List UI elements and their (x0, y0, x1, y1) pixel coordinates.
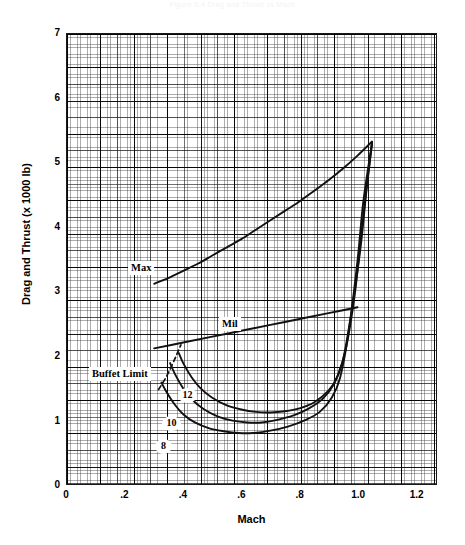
x-tick-1-2: 1.2 (410, 489, 424, 500)
chart-figure: Figure 5.4 Drag and Thrust vs Mach 7 6 5… (0, 0, 465, 545)
y-tick-7: 7 (38, 28, 60, 38)
curve-10 (170, 143, 372, 423)
curve-max (154, 142, 372, 284)
x-tick-0: 0 (63, 489, 69, 500)
plot-area: Max Mil Buffet Limit 12 10 8 (66, 33, 437, 485)
x-tick-0-2: .2 (120, 489, 128, 500)
x-axis-ticks: 0 .2 .4 .6 .8 1.0 1.2 (66, 489, 437, 505)
y-tick-0: 0 (38, 480, 60, 490)
curve-layer (67, 34, 436, 484)
y-tick-2: 2 (38, 351, 60, 361)
curve-mil (154, 307, 357, 348)
x-tick-1-0: 1.0 (351, 489, 365, 500)
x-tick-0-8: .8 (296, 489, 304, 500)
y-tick-3: 3 (38, 286, 60, 296)
y-tick-1: 1 (38, 416, 60, 426)
y-axis-label: Drag and Thrust (x 1000 lb) (20, 124, 32, 344)
label-mil: Mil (219, 317, 241, 331)
y-tick-4: 4 (38, 222, 60, 232)
x-tick-0-6: .6 (237, 489, 245, 500)
label-curve-10: 10 (162, 416, 181, 431)
curve-12 (179, 143, 372, 413)
label-curve-8: 8 (155, 439, 172, 454)
label-buffet-limit: Buffet Limit (89, 367, 151, 381)
x-axis-label: Mach (66, 513, 437, 525)
y-tick-5: 5 (38, 157, 60, 167)
y-axis-ticks: 7 6 5 4 3 2 1 0 (36, 33, 60, 485)
label-max: Max (128, 261, 154, 275)
label-curve-12: 12 (178, 388, 197, 403)
y-tick-6: 6 (38, 93, 60, 103)
x-tick-0-4: .4 (179, 489, 187, 500)
figure-top-title: Figure 5.4 Drag and Thrust vs Mach (0, 1, 465, 8)
